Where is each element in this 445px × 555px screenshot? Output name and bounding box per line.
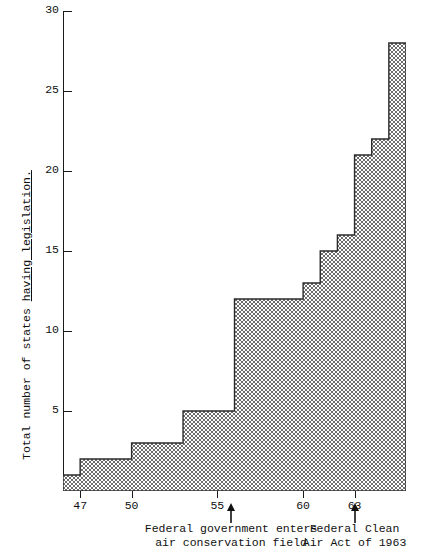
y-axis-title-container: Total number of states having legislatio… [0, 0, 30, 500]
annotation-arrow-federal-government-enters [225, 502, 237, 524]
x-tick-label-60: 60 [296, 499, 310, 512]
annotation-caption-federal-government-enters: Federal government entersair conservatio… [145, 522, 318, 550]
y-tick-label: 30 [45, 3, 59, 16]
x-tick-mark-60 [303, 491, 304, 498]
annotation-caption-federal-clean-air-act: Federal CleanAir Act of 1963 [303, 522, 407, 550]
annotation-arrow-federal-clean-air-act [349, 502, 361, 524]
annotation-caption-line2: Air Act of 1963 [303, 536, 407, 550]
y-tick-label: 5 [52, 403, 59, 416]
y-axis-title-underlined: having legislation. [20, 170, 33, 301]
x-tick-label-47: 47 [73, 499, 87, 512]
annotation-caption-line1: Federal Clean [303, 522, 407, 536]
y-axis-title: Total number of states having legislatio… [20, 170, 33, 460]
y-tick-label: 25 [45, 83, 59, 96]
chart-figure: Total number of states having legislatio… [0, 0, 445, 555]
y-tick-label: 20 [45, 163, 59, 176]
x-tick-mark-63 [355, 491, 356, 498]
plot-area: 51015202530 4750556063 [63, 11, 406, 491]
x-tick-mark-47 [80, 491, 81, 498]
x-tick-label-50: 50 [125, 499, 139, 512]
y-axis-title-plain: Total number of states [20, 301, 33, 460]
annotation-caption-line2: air conservation field [145, 536, 318, 550]
y-tick-label: 15 [45, 243, 59, 256]
x-tick-label-55: 55 [210, 499, 224, 512]
histogram-path [63, 43, 406, 491]
annotation-caption-line1: Federal government enters [145, 522, 318, 536]
y-tick-label: 10 [45, 323, 59, 336]
x-tick-mark-55 [217, 491, 218, 498]
histogram-staircase [63, 11, 406, 491]
x-tick-mark-50 [132, 491, 133, 498]
